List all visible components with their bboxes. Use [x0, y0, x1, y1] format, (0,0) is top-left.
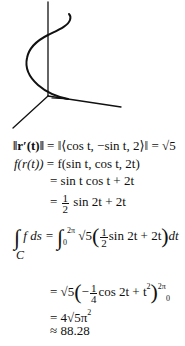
denominator: 2: [100, 238, 108, 248]
simplified-expr: = sin t cos t + 2t: [50, 173, 134, 188]
numerator: 1: [90, 283, 98, 294]
line-integral-line: ∫ f ds = ∫02π √5(12sin 2t + 2t)dt: [14, 224, 179, 250]
antiderivative-line: = √5(−14cos 2t + t2)2π0: [50, 280, 170, 306]
lower-limit: 0: [63, 238, 67, 247]
antiderivative-expr: cos 2t + t: [98, 284, 146, 299]
upper-limit: 2π: [67, 226, 75, 235]
curve-label: C: [16, 248, 24, 262]
eval-upper: 2π: [158, 282, 166, 291]
simplified-line: = sin t cos t + 2t: [50, 174, 134, 188]
f-of-r-line: f(r(t)) = f(sin t, cos t, 2t): [14, 157, 140, 171]
f-of-r-lhs: f(r(t)): [14, 156, 44, 171]
norm-r-prime: ‖r′(t)‖: [13, 138, 44, 153]
left-paren: (: [92, 223, 99, 248]
differential: dt: [169, 228, 179, 243]
integrand-lhs: f ds =: [23, 228, 53, 243]
minus-sign: −: [82, 284, 89, 299]
approx-result-line: ≈ 88.28: [50, 324, 90, 338]
denominator: 4: [90, 294, 98, 304]
f-of-r-rhs: = f(sin t, cos t, 2t): [47, 156, 140, 171]
x-axis: [13, 96, 48, 128]
eval-lower: 0: [166, 294, 170, 303]
double-angle-expr: sin 2t + 2t: [73, 194, 125, 209]
right-paren: ): [161, 223, 168, 248]
norm-result: = √5: [151, 138, 175, 153]
equals-sign: =: [50, 194, 57, 209]
helix-figure: [0, 0, 185, 130]
norm-derivative-line: ‖r′(t)‖ = ‖⟨cos t, −sin t, 2⟩‖ = √5: [13, 139, 176, 153]
double-angle-line: = 1 2 sin 2t + 2t: [50, 193, 126, 214]
approx-result: ≈ 88.28: [50, 323, 90, 338]
sqrt5-coef: = √5: [50, 284, 74, 299]
coefficient: √5: [78, 228, 92, 243]
norm-vector: = ‖⟨cos t, −sin t, 2⟩‖: [47, 138, 148, 153]
denominator: 2: [62, 204, 70, 214]
pi-exponent: 2: [87, 308, 91, 317]
fraction-half-2: 12: [100, 227, 108, 248]
left-paren: (: [74, 279, 81, 304]
integral-sign: ∫: [14, 225, 20, 250]
right-paren: ): [151, 279, 158, 304]
fraction-quarter: 14: [90, 283, 98, 304]
numerator: 1: [100, 227, 108, 238]
integrand-expr: sin 2t + 2t: [109, 228, 161, 243]
fraction-half: 1 2: [62, 193, 70, 214]
